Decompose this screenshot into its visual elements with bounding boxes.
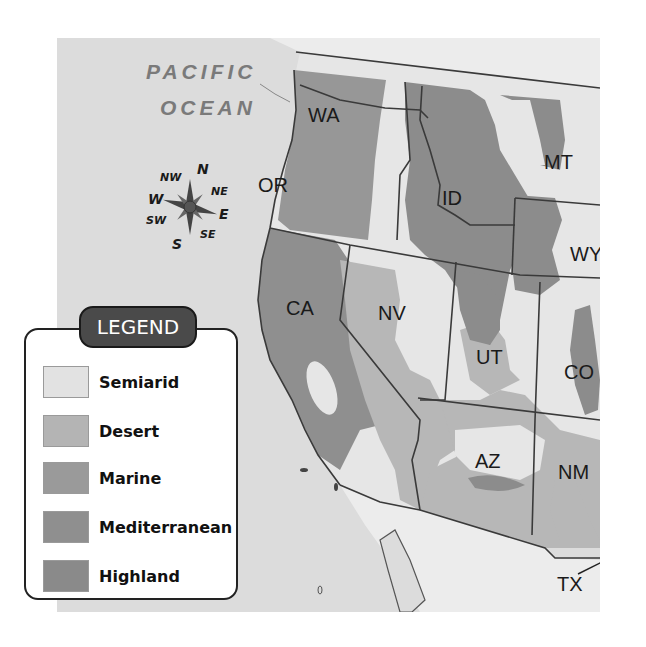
legend-swatch-mediterranean	[43, 511, 89, 543]
legend-item-desert: Desert	[43, 414, 159, 448]
compass-nw: NW	[160, 171, 181, 184]
island	[334, 483, 338, 491]
legend-swatch-highland	[43, 560, 89, 592]
state-label-wa: WA	[308, 104, 339, 127]
legend-swatch-desert	[43, 415, 89, 447]
legend-label-semiarid: Semiarid	[99, 373, 179, 392]
legend-item-semiarid: Semiarid	[43, 365, 179, 399]
legend-swatch-semiarid	[43, 366, 89, 398]
legend-item-marine: Marine	[43, 461, 161, 495]
legend-label-desert: Desert	[99, 422, 159, 441]
compass-w: W	[148, 191, 163, 207]
state-label-nm: NM	[558, 461, 589, 484]
state-label-tx: TX	[557, 573, 583, 596]
legend-label-marine: Marine	[99, 469, 161, 488]
legend-label-mediterranean: Mediterranean	[99, 518, 232, 537]
legend-swatch-marine	[43, 462, 89, 494]
state-label-id: ID	[442, 187, 462, 210]
island	[300, 468, 308, 472]
state-label-or: OR	[258, 174, 288, 197]
state-label-nv: NV	[378, 302, 406, 325]
legend-item-highland: Highland	[43, 559, 180, 593]
legend-box: Semiarid Desert Marine Mediterranean Hig…	[24, 328, 238, 600]
state-label-wy: WY	[570, 243, 600, 266]
ocean-label-ocean: OCEAN	[160, 96, 256, 120]
legend-item-mediterranean: Mediterranean	[43, 510, 232, 544]
ocean-label-pacific: PACIFIC	[146, 60, 256, 84]
compass-e: E	[219, 206, 229, 222]
state-label-ca: CA	[286, 297, 314, 320]
legend-title: LEGEND	[79, 306, 197, 348]
state-label-mt: MT	[544, 151, 573, 174]
compass-n: N	[197, 161, 209, 177]
compass-s: S	[172, 236, 182, 252]
legend-label-highland: Highland	[99, 567, 180, 586]
state-label-az: AZ	[475, 450, 501, 473]
state-label-co: CO	[564, 361, 594, 384]
compass-sw: SW	[146, 214, 166, 227]
state-label-ut: UT	[476, 346, 503, 369]
compass-se: SE	[200, 228, 215, 241]
compass-ne: NE	[211, 185, 228, 198]
